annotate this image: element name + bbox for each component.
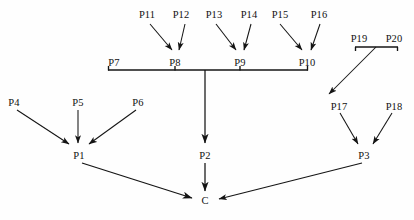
edge-p1-c (82, 163, 192, 198)
node-p9[interactable]: P9 (234, 57, 245, 68)
node-p8[interactable]: P8 (169, 57, 180, 68)
edge-p4-p1 (17, 110, 69, 144)
node-c[interactable]: C (201, 195, 208, 206)
node-p16[interactable]: P16 (311, 9, 328, 20)
edge-p17-p3 (340, 113, 358, 144)
edge-p14-p9 (244, 24, 251, 50)
node-p17[interactable]: P17 (331, 101, 348, 112)
edge-p15-p10 (280, 24, 302, 50)
node-p11[interactable]: P11 (139, 9, 155, 20)
edge-bracket-p17 (329, 47, 376, 94)
diagram-canvas: P11 P12 P13 P14 P15 P16 P19 P20 P7 P8 P9… (0, 0, 414, 220)
node-p5[interactable]: P5 (72, 97, 83, 108)
node-p1[interactable]: P1 (73, 150, 84, 161)
node-p10[interactable]: P10 (299, 57, 316, 68)
node-p15[interactable]: P15 (272, 9, 289, 20)
node-p18[interactable]: P18 (386, 101, 403, 112)
node-p4[interactable]: P4 (8, 97, 19, 108)
edge-p12-p8 (179, 24, 185, 50)
node-p20[interactable]: P20 (386, 33, 403, 44)
node-p2[interactable]: P2 (199, 150, 210, 161)
edge-p16-p10 (311, 24, 320, 50)
edge-p13-p9 (216, 24, 236, 50)
edge-p11-p8 (150, 24, 172, 50)
node-p12[interactable]: P12 (173, 9, 190, 20)
node-p14[interactable]: P14 (241, 9, 258, 20)
node-p19[interactable]: P19 (351, 33, 368, 44)
node-p7[interactable]: P7 (108, 57, 119, 68)
edge-p18-p3 (373, 113, 392, 144)
node-p13[interactable]: P13 (206, 9, 223, 20)
node-p6[interactable]: P6 (132, 97, 143, 108)
node-p3[interactable]: P3 (358, 150, 369, 161)
edge-p6-p1 (89, 110, 136, 144)
edge-p3-c (219, 163, 362, 199)
